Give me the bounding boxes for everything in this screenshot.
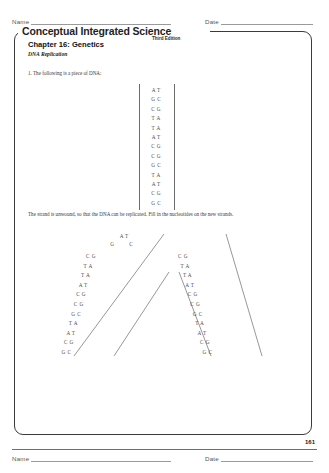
- fork-top-pair-1: AT: [105, 232, 145, 240]
- footer-divider: [12, 449, 317, 450]
- base-pair: GC: [71, 310, 97, 320]
- footer-name-label: Name: [12, 455, 31, 462]
- base-pair: CG: [64, 338, 90, 348]
- fork-right-arm-pairs: CGTATAATCGCGGCTAATCGGC: [178, 252, 204, 358]
- base-pair: TA: [84, 262, 110, 272]
- base-pair: GC: [193, 310, 219, 320]
- base-pair: AT: [139, 133, 175, 142]
- header-date-rule[interactable]: [221, 18, 313, 25]
- base-pair: CG: [178, 252, 204, 262]
- question-2-text: The strand is unwound, so that the DNA c…: [28, 211, 233, 217]
- worksheet-subtitle: DNA Replication: [28, 51, 67, 57]
- header-date-field[interactable]: Date: [205, 18, 317, 25]
- ladder-base-pairs: ATGCCGTATAATCGCGGCTAATCGGC: [139, 84, 175, 210]
- base-pair: AT: [66, 329, 92, 339]
- base-pair: CG: [139, 105, 175, 114]
- footer-date-rule[interactable]: [221, 455, 313, 462]
- base-pair: AT: [185, 281, 211, 291]
- footer-name-field[interactable]: Name: [12, 455, 184, 462]
- base-pair: CG: [74, 300, 100, 310]
- book-edition: Third Edition: [152, 36, 180, 41]
- worksheet-page: Name Date Conceptual Integrated Science …: [0, 0, 329, 473]
- base-pair: TA: [139, 124, 175, 133]
- footer-date-field[interactable]: Date: [205, 455, 317, 462]
- header-date-label: Date: [205, 18, 221, 25]
- question-1-text: 1. The following is a piece of DNA:: [28, 70, 101, 76]
- base-pair: CG: [190, 300, 216, 310]
- base-pair: CG: [139, 189, 175, 198]
- base-pair: CG: [188, 290, 214, 300]
- base-pair: GC: [62, 348, 88, 358]
- base-pair: GC: [139, 95, 175, 104]
- base-pair: CG: [200, 338, 226, 348]
- base-pair: AT: [198, 329, 224, 339]
- base-pair: CG: [86, 252, 112, 262]
- base-pair: TA: [81, 271, 107, 281]
- base-pair: CG: [76, 290, 102, 300]
- base-pair: CG: [139, 152, 175, 161]
- base-pair: AT: [79, 281, 105, 291]
- header-name-rule[interactable]: [31, 18, 171, 25]
- base-pair: TA: [195, 319, 221, 329]
- base-pair: AT: [139, 180, 175, 189]
- base-pair: GC: [139, 161, 175, 170]
- fork-top-pair-2: G C: [105, 240, 145, 249]
- fork-top-pairs: AT G C: [105, 232, 145, 249]
- chapter-heading: Chapter 16: Genetics: [28, 40, 104, 49]
- dna-ladder-figure: ATGCCGTATAATCGCGGCTAATCGGC: [139, 84, 175, 210]
- base-pair: TA: [183, 271, 209, 281]
- base-pair: GC: [203, 348, 229, 358]
- book-title: Conceptual Integrated Science: [22, 25, 171, 37]
- base-pair: TA: [139, 114, 175, 123]
- base-pair: GC: [139, 199, 175, 208]
- footer-date-label: Date: [205, 455, 221, 462]
- base-pair: TA: [69, 319, 95, 329]
- header-name-label: Name: [12, 18, 31, 25]
- base-pair: CG: [139, 142, 175, 151]
- page-number: 161: [305, 439, 315, 445]
- header-name-field[interactable]: Name: [12, 18, 184, 25]
- fork-left-arm-pairs: CGTATAATCGCGGCTAATCGGC: [86, 252, 112, 358]
- base-pair: TA: [180, 262, 206, 272]
- footer-name-rule[interactable]: [31, 455, 171, 462]
- base-pair: AT: [139, 86, 175, 95]
- base-pair: TA: [139, 171, 175, 180]
